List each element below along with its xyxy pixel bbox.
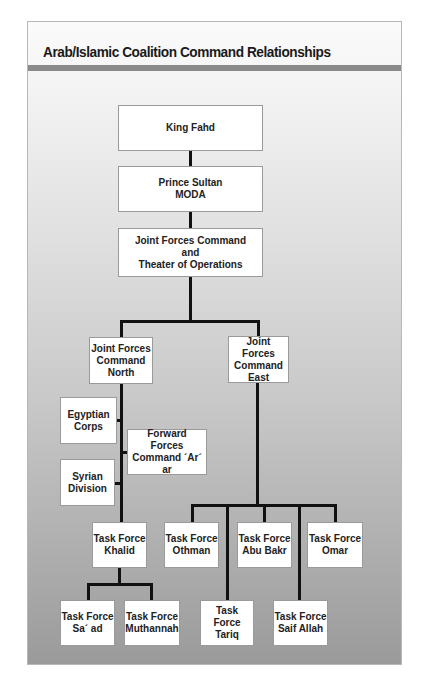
connector-to-jfc-east [257, 320, 260, 336]
connector-to-othman [191, 504, 194, 522]
connector-tick-syrian [115, 482, 121, 485]
node-tf-saad: Task Force Sa´ ad [60, 600, 115, 646]
node-tf-muthannah: Task Force Muthannah [124, 600, 180, 646]
connector-jfc-branch [120, 320, 260, 323]
connector-to-tariq [226, 504, 229, 600]
node-tf-omar: Task Force Omar [307, 522, 363, 568]
node-jfc-east: Joint Forces Command East [228, 336, 289, 383]
node-tf-saif-allah: Task Force Saif Allah [273, 600, 328, 646]
connector-east-trunk [256, 383, 259, 507]
node-prince-sultan: Prince Sultan MODA [118, 166, 263, 212]
diagram-title: Arab/Islamic Coalition Command Relations… [43, 43, 331, 61]
connector-to-saif-allah [298, 504, 301, 600]
node-tf-khalid: Task Force Khalid [92, 522, 147, 568]
node-tf-othman: Task Force Othman [164, 522, 219, 568]
connector-to-muthannah [150, 583, 153, 600]
node-tf-tariq: Task Force Tariq [200, 600, 254, 646]
connector-khalid-branch [87, 583, 153, 586]
connector-to-saad [87, 583, 90, 600]
connector-to-omar [334, 504, 337, 522]
title-divider-bar [28, 65, 401, 71]
connector-sultan-to-jfc [189, 212, 192, 228]
node-king-fahd: King Fahd [118, 105, 263, 151]
node-joint-forces-command: Joint Forces Command and Theater of Oper… [118, 228, 263, 277]
connector-jfc-down [189, 277, 192, 322]
node-jfc-north: Joint Forces Command North [89, 337, 153, 384]
connector-to-abu-bakr [263, 504, 266, 522]
connector-to-jfc-north [120, 320, 123, 337]
node-tf-abu-bakr: Task Force Abu Bakr [237, 522, 292, 568]
node-forward-forces-command: Forward Forces Command ´Ar´ ar [127, 429, 207, 475]
connector-king-to-sultan [189, 151, 192, 166]
node-syrian-division: Syrian Division [60, 459, 115, 506]
node-egyptian-corps: Egyptian Corps [60, 397, 117, 444]
connector-tick-egyptian [117, 419, 121, 422]
